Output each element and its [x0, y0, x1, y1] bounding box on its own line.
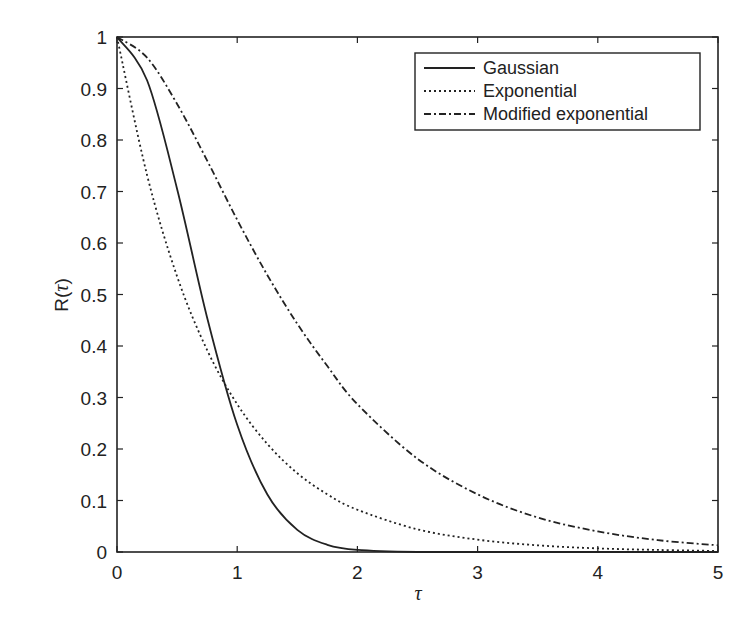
- x-tick-label: 4: [593, 562, 604, 583]
- y-tick-label: 0.9: [81, 79, 107, 100]
- x-tick-label: 5: [713, 562, 724, 583]
- x-tick-label: 2: [352, 562, 363, 583]
- svg-text:R(τ): R(τ): [50, 278, 72, 312]
- y-tick-label: 0.5: [81, 285, 107, 306]
- y-tick-label: 0.4: [81, 336, 108, 357]
- y-axis-label-close: ): [51, 278, 72, 284]
- x-axis-label: τ: [414, 582, 422, 604]
- y-tick-label: 0.6: [81, 233, 107, 254]
- legend: Gaussian Exponential Modified exponentia…: [415, 53, 700, 130]
- y-tick-label: 0.7: [81, 182, 107, 203]
- y-axis-label: R(τ): [50, 278, 72, 312]
- y-tick-label: 0.3: [81, 388, 107, 409]
- y-tick-label: 0: [96, 542, 107, 563]
- line-chart: 01234500.10.20.30.40.50.60.70.80.91 Gaus…: [0, 0, 755, 624]
- y-tick-label: 0.1: [81, 491, 107, 512]
- x-tick-label: 1: [232, 562, 243, 583]
- legend-label-modified-exponential: Modified exponential: [483, 104, 648, 124]
- x-tick-label: 3: [472, 562, 483, 583]
- y-axis-label-main: R(: [51, 291, 72, 312]
- y-tick-label: 1: [96, 27, 107, 48]
- y-tick-label: 0.8: [81, 130, 107, 151]
- x-tick-label: 0: [112, 562, 123, 583]
- legend-label-gaussian: Gaussian: [483, 58, 559, 78]
- y-tick-label: 0.2: [81, 439, 107, 460]
- legend-label-exponential: Exponential: [483, 81, 577, 101]
